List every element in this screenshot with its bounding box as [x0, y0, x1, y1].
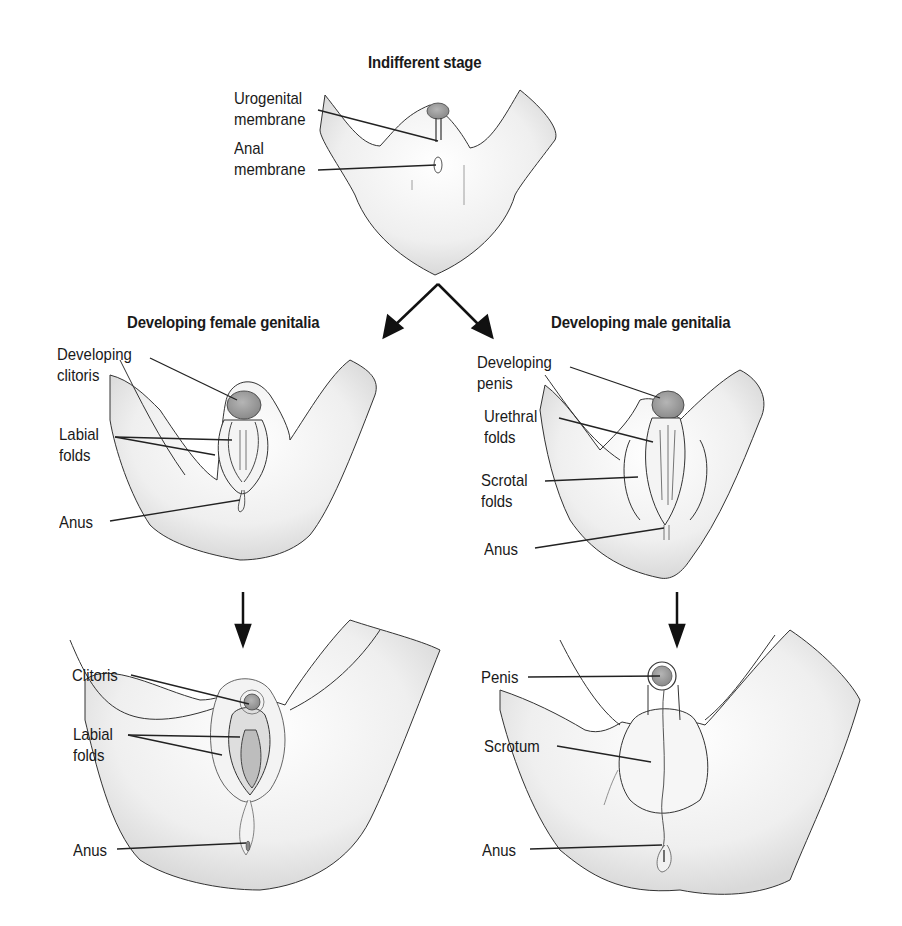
label-labial-folds-final: Labial folds: [73, 724, 113, 766]
label-developing-penis: Developing penis: [477, 352, 552, 394]
label-anus-female-final: Anus: [73, 840, 107, 861]
label-anus-male-final: Anus: [482, 840, 516, 861]
male-developing-title: Developing male genitalia: [551, 313, 730, 333]
label-labial-folds: Labial folds: [59, 424, 99, 466]
label-anus-male-developing: Anus: [484, 539, 518, 560]
final-female-illustration: [70, 620, 440, 890]
final-male-illustration: [500, 630, 860, 894]
diagram-artwork: [0, 0, 902, 926]
label-penis: Penis: [481, 667, 518, 688]
label-scrotal-folds: Scrotal folds: [481, 470, 528, 512]
branch-arrows: [384, 284, 492, 337]
label-urogenital-membrane: Urogenital membrane: [234, 88, 306, 130]
down-arrows: [236, 592, 684, 645]
female-developing-title: Developing female genitalia: [127, 313, 319, 333]
label-developing-clitoris: Developing clitoris: [57, 344, 132, 386]
label-urethral-folds: Urethral folds: [484, 406, 537, 448]
developing-male-illustration: [535, 367, 764, 578]
indifferent-stage-title: Indifferent stage: [368, 53, 481, 73]
label-clitoris: Clitoris: [72, 665, 118, 686]
label-scrotum: Scrotum: [484, 736, 540, 757]
developing-female-illustration: [110, 358, 376, 560]
indifferent-stage-illustration: [318, 90, 556, 275]
label-anus-female-developing: Anus: [59, 512, 93, 533]
label-anal-membrane: Anal membrane: [234, 138, 306, 180]
